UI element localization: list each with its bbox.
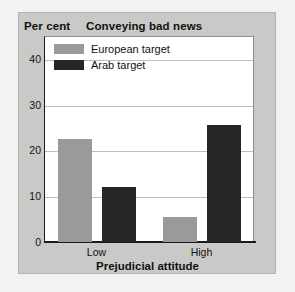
y-tick-label: 10 <box>3 190 41 202</box>
chart-figure: Per cent Conveying bad news 010203040 Lo… <box>0 0 295 292</box>
legend-label-european: European target <box>91 43 170 55</box>
y-axis-ticks: 010203040 <box>0 0 41 292</box>
x-axis-title: Prejudicial attitude <box>0 260 295 272</box>
y-tick-label: 40 <box>3 53 41 65</box>
y-tick-label: 20 <box>3 144 41 156</box>
chart-legend: European target Arab target <box>54 42 170 74</box>
y-tick-label: 30 <box>3 99 41 111</box>
arab-swatch-icon <box>54 60 84 70</box>
bar-high-arab <box>207 125 241 242</box>
legend-item-arab: Arab target <box>54 58 170 72</box>
bar-high-european <box>163 217 197 242</box>
bar-low-european <box>58 139 92 242</box>
x-tick-label-high: High <box>167 246 237 258</box>
y-tick-label: 0 <box>3 236 41 248</box>
chart-title: Conveying bad news <box>86 20 202 32</box>
legend-label-arab: Arab target <box>91 59 145 71</box>
legend-item-european: European target <box>54 42 170 56</box>
european-swatch-icon <box>54 44 84 54</box>
x-tick-label-low: Low <box>62 246 132 258</box>
bar-low-arab <box>102 187 136 242</box>
